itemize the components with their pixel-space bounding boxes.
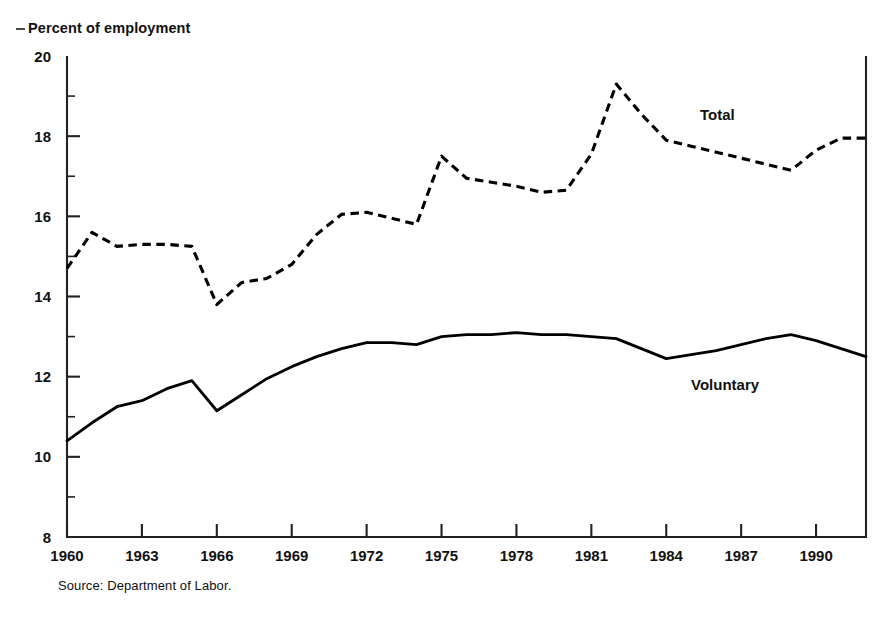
x-tick-label-1972: 1972 bbox=[350, 547, 383, 564]
x-tick-label-1969: 1969 bbox=[275, 547, 308, 564]
plot-frame bbox=[67, 56, 866, 537]
y-tick-label-18: 18 bbox=[34, 128, 51, 145]
x-tick-labels: 1960196319661969197219751978198119841987… bbox=[50, 547, 832, 564]
y-tick-label-16: 16 bbox=[34, 208, 51, 225]
series-line-total bbox=[67, 84, 866, 304]
series-label-voluntary: Voluntary bbox=[691, 376, 760, 393]
chart-plot-area: 2018161412108 19601963196619691972197519… bbox=[0, 0, 885, 623]
x-tick-label-1981: 1981 bbox=[575, 547, 608, 564]
y-tick-labels: 2018161412108 bbox=[34, 48, 51, 546]
x-tick-label-1990: 1990 bbox=[799, 547, 832, 564]
y-tick-label-14: 14 bbox=[34, 288, 51, 305]
y-tick-label-20: 20 bbox=[34, 48, 51, 65]
x-tick-label-1978: 1978 bbox=[500, 547, 533, 564]
x-tick-label-1963: 1963 bbox=[125, 547, 158, 564]
x-tick-marks bbox=[67, 524, 816, 537]
x-tick-label-1975: 1975 bbox=[425, 547, 458, 564]
chart-figure: g, p y Percent of employment 20181614121… bbox=[0, 0, 885, 623]
y-tick-label-12: 12 bbox=[34, 368, 51, 385]
x-tick-label-1966: 1966 bbox=[200, 547, 233, 564]
source-note: Source: Department of Labor. bbox=[58, 578, 231, 593]
x-tick-label-1987: 1987 bbox=[724, 547, 757, 564]
y-tick-label-8: 8 bbox=[43, 529, 51, 546]
y-tick-label-10: 10 bbox=[34, 448, 51, 465]
series-label-total: Total bbox=[700, 106, 735, 123]
x-tick-label-1960: 1960 bbox=[50, 547, 83, 564]
x-tick-label-1984: 1984 bbox=[650, 547, 684, 564]
